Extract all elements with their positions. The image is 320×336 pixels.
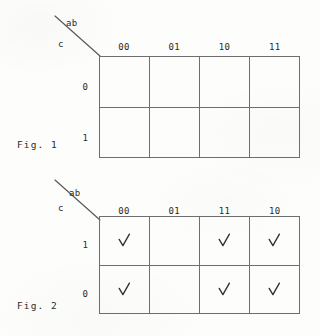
column-headers-1: 00 01 10 11 [99, 41, 300, 53]
kmap-cell-r1c0[interactable] [100, 108, 150, 159]
check-mark-icon [118, 282, 131, 297]
figure-page: ab c 00 01 10 11 0 1 Fig. 1 [0, 0, 320, 336]
column-variable-label-2: ab [69, 188, 81, 199]
row-header-0: 1 [72, 239, 88, 251]
kmap-cell-r0c0[interactable] [100, 57, 150, 108]
kmap-cell-r1c1[interactable] [150, 108, 200, 159]
row-variable-label-1: c [58, 39, 64, 50]
column-header-0: 00 [99, 41, 149, 53]
figure-caption-2: Fig. 2 [17, 300, 58, 312]
row-variable-label-2: c [58, 203, 64, 214]
kmap-cell-r0c3[interactable] [250, 57, 300, 108]
kmap-cell-r1c3[interactable] [250, 266, 300, 315]
row-header-0: 0 [72, 81, 88, 93]
check-mark-icon [268, 282, 281, 297]
column-variable-label-1: ab [66, 18, 78, 29]
kmap-cell-r1c1[interactable] [150, 266, 200, 315]
figure-2: ab c 00 01 11 10 1 0 [0, 175, 320, 336]
kmap-cell-r0c2[interactable] [200, 217, 250, 266]
check-mark-icon [268, 233, 281, 248]
column-header-2: 10 [200, 41, 250, 53]
kmap-cell-r0c2[interactable] [200, 57, 250, 108]
figure-caption-1: Fig. 1 [17, 139, 58, 151]
kmap-cell-r0c3[interactable] [250, 217, 300, 266]
check-mark-icon [118, 233, 131, 248]
row-header-1: 1 [72, 132, 88, 144]
kmap-cell-r0c1[interactable] [150, 57, 200, 108]
kmap-cell-r1c2[interactable] [200, 108, 250, 159]
kmap-cell-r0c0[interactable] [100, 217, 150, 266]
figure-1: ab c 00 01 10 11 0 1 Fig. 1 [0, 0, 320, 175]
row-header-1: 0 [72, 288, 88, 300]
kmap-cell-r1c0[interactable] [100, 266, 150, 315]
kmap-cell-r1c2[interactable] [200, 266, 250, 315]
kmap-grid-1 [99, 56, 300, 158]
column-header-1: 01 [149, 41, 199, 53]
check-mark-icon [218, 282, 231, 297]
kmap-cell-r1c3[interactable] [250, 108, 300, 159]
column-header-3: 11 [250, 41, 300, 53]
kmap-grid-2 [99, 216, 300, 314]
kmap-cell-r0c1[interactable] [150, 217, 200, 266]
check-mark-icon [218, 233, 231, 248]
